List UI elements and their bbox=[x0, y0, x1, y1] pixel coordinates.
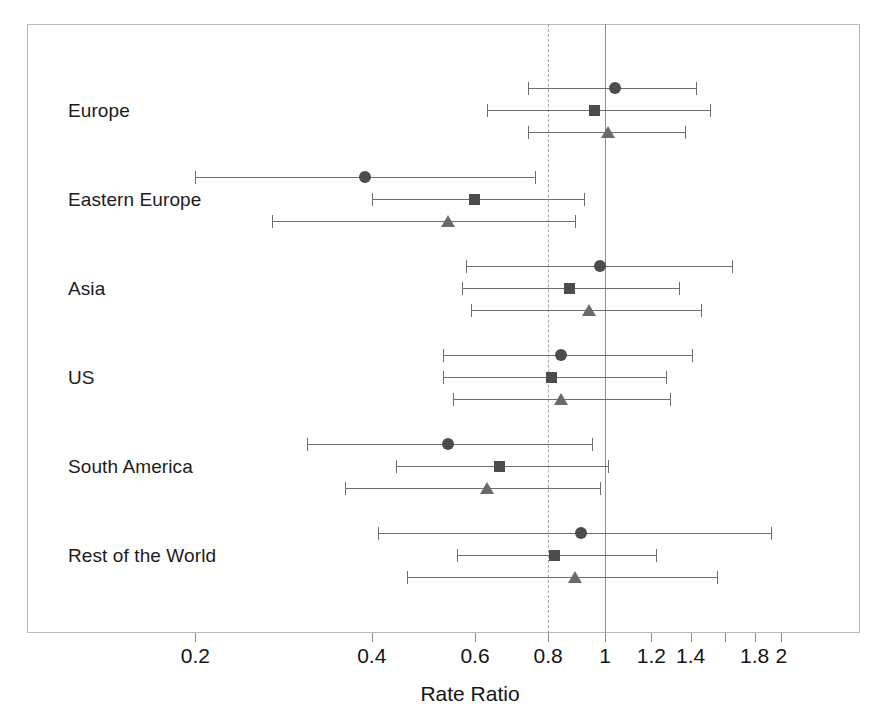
category-label: Asia bbox=[68, 279, 105, 298]
ci-cap-upper bbox=[666, 371, 667, 384]
ci-cap-upper bbox=[592, 438, 593, 451]
point-marker-square bbox=[589, 105, 600, 116]
x-tick bbox=[755, 633, 756, 642]
confidence-interval-line bbox=[443, 355, 692, 356]
x-tick bbox=[781, 633, 782, 642]
ci-cap-lower bbox=[378, 527, 379, 540]
ci-cap-upper bbox=[575, 215, 576, 228]
point-marker-triangle bbox=[554, 393, 568, 405]
x-tick bbox=[475, 633, 476, 642]
ci-cap-upper bbox=[670, 393, 671, 406]
ci-cap-upper bbox=[685, 126, 686, 139]
ci-cap-lower bbox=[471, 304, 472, 317]
x-tick bbox=[691, 633, 692, 642]
ci-cap-lower bbox=[345, 482, 346, 495]
x-tick-label: 1.2 bbox=[637, 645, 666, 666]
ci-cap-upper bbox=[584, 193, 585, 206]
ci-cap-lower bbox=[528, 82, 529, 95]
ci-cap-lower bbox=[307, 438, 308, 451]
category-label: US bbox=[68, 368, 95, 387]
x-tick bbox=[372, 633, 373, 642]
x-tick-label: 0.6 bbox=[460, 645, 489, 666]
ci-cap-upper bbox=[600, 482, 601, 495]
ci-cap-upper bbox=[717, 571, 718, 584]
point-marker-circle bbox=[555, 349, 567, 361]
ci-cap-lower bbox=[372, 193, 373, 206]
ci-cap-lower bbox=[195, 171, 196, 184]
point-marker-triangle bbox=[601, 126, 615, 138]
point-marker-square bbox=[549, 550, 560, 561]
category-label: Europe bbox=[68, 101, 130, 120]
x-axis-title-text: Rate Ratio bbox=[360, 683, 519, 704]
x-tick-label: 0.8 bbox=[534, 645, 563, 666]
x-tick-label: 1.4 bbox=[676, 645, 705, 666]
x-tick-label: 0.2 bbox=[181, 645, 210, 666]
ci-cap-upper bbox=[701, 304, 702, 317]
category-label: South America bbox=[68, 457, 193, 476]
point-marker-square bbox=[564, 283, 575, 294]
ci-cap-upper bbox=[732, 260, 733, 273]
ci-cap-upper bbox=[696, 82, 697, 95]
point-marker-square bbox=[469, 194, 480, 205]
ci-cap-upper bbox=[710, 104, 711, 117]
x-tick bbox=[725, 633, 726, 642]
ci-cap-upper bbox=[535, 171, 536, 184]
point-marker-circle bbox=[609, 82, 621, 94]
x-tick-label: 0.4 bbox=[357, 645, 386, 666]
point-marker-triangle bbox=[480, 482, 494, 494]
ci-cap-lower bbox=[453, 393, 454, 406]
ci-cap-lower bbox=[528, 126, 529, 139]
ci-cap-lower bbox=[457, 549, 458, 562]
point-marker-triangle bbox=[441, 215, 455, 227]
point-marker-square bbox=[546, 372, 557, 383]
ci-cap-lower bbox=[466, 260, 467, 273]
point-marker-triangle bbox=[582, 304, 596, 316]
category-label: Rest of the World bbox=[68, 546, 216, 565]
ci-cap-upper bbox=[656, 549, 657, 562]
plot-area bbox=[27, 24, 860, 633]
confidence-interval-line bbox=[272, 221, 576, 222]
forest-plot-figure: 0.20.40.60.811.21.41.82EuropeEastern Eur… bbox=[0, 0, 880, 728]
ci-cap-upper bbox=[679, 282, 680, 295]
x-tick-label: 2 bbox=[776, 645, 788, 666]
ci-cap-lower bbox=[407, 571, 408, 584]
ci-cap-upper bbox=[608, 460, 609, 473]
point-marker-circle bbox=[594, 260, 606, 272]
confidence-interval-line bbox=[407, 577, 716, 578]
category-label: Eastern Europe bbox=[68, 190, 201, 209]
ci-cap-lower bbox=[443, 371, 444, 384]
confidence-interval-line bbox=[345, 488, 600, 489]
ci-cap-upper bbox=[692, 349, 693, 362]
reference-line-1 bbox=[605, 24, 606, 633]
x-tick bbox=[605, 633, 606, 642]
x-tick bbox=[548, 633, 549, 642]
ci-cap-lower bbox=[396, 460, 397, 473]
x-axis-title: Rate Ratio bbox=[0, 683, 880, 704]
x-tick-label: 1.8 bbox=[740, 645, 769, 666]
x-tick bbox=[195, 633, 196, 642]
ci-cap-lower bbox=[272, 215, 273, 228]
point-marker-square bbox=[494, 461, 505, 472]
x-tick-label: 1 bbox=[599, 645, 611, 666]
ci-cap-lower bbox=[462, 282, 463, 295]
ci-cap-lower bbox=[487, 104, 488, 117]
reference-line-0.8 bbox=[548, 24, 549, 633]
point-marker-triangle bbox=[568, 571, 582, 583]
x-tick bbox=[651, 633, 652, 642]
ci-cap-lower bbox=[443, 349, 444, 362]
point-marker-circle bbox=[575, 527, 587, 539]
ci-cap-upper bbox=[771, 527, 772, 540]
